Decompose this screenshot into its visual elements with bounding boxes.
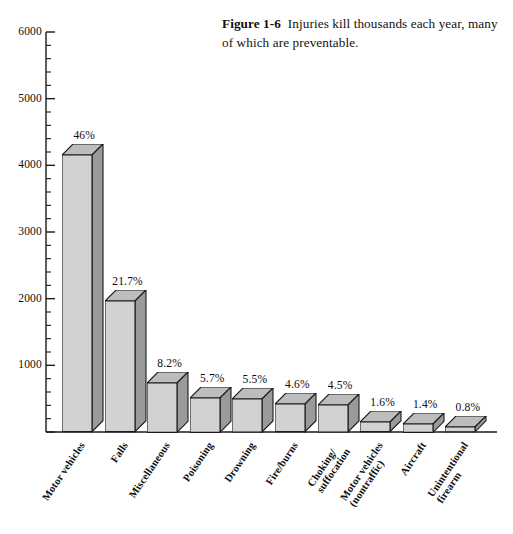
y-axis-tick-label: 5000 [0,92,42,104]
y-axis-tick-label: 3000 [0,225,42,237]
bar[interactable]: 5.5% [232,399,273,443]
bar[interactable]: 46% [62,155,103,443]
bar-chart: 100020003000400050006000 46%21.7%8.2%5.7… [0,0,513,534]
bar-front-face [190,398,220,432]
bar-front-face [275,404,305,432]
bar-3d-shape [318,394,360,433]
bar-value-label: 1.6% [370,396,395,408]
y-axis-tick-label: 1000 [0,358,42,370]
bar[interactable]: 1.4% [403,424,444,443]
bar-value-label: 5.7% [200,372,225,384]
bar-front-face [105,301,135,432]
bar[interactable]: 4.6% [275,404,316,443]
bar-front-face [147,383,177,432]
bar-side-face [92,144,103,432]
bar-front-face [318,405,348,432]
bar[interactable]: 4.5% [318,405,359,443]
bar-value-label: 0.8% [455,401,480,413]
y-axis-tick-label: 6000 [0,25,42,37]
bar-value-label: 21.7% [112,275,143,287]
bar-front-face [62,155,92,432]
bar-3d-shape [62,144,104,433]
bar-3d-shape [232,388,274,433]
y-axis-tick-label: 2000 [0,292,42,304]
bar-front-face [360,422,390,432]
bar-side-face [135,290,146,432]
bar-3d-shape [105,290,147,433]
bar[interactable]: 21.7% [105,301,146,443]
bar[interactable]: 1.6% [360,422,401,443]
bar-3d-shape [190,387,232,433]
bar-front-face [445,427,475,432]
bar-3d-shape [275,393,317,433]
bar-3d-shape [403,413,445,433]
bar-3d-shape [360,411,402,433]
bar[interactable]: 5.7% [190,398,231,443]
bar-value-label: 4.5% [328,379,353,391]
bar-front-face [232,399,262,432]
bar-value-label: 5.5% [242,373,267,385]
bar-value-label: 4.6% [285,378,310,390]
bar-value-label: 8.2% [157,357,182,369]
bar-side-face [177,372,188,432]
y-axis-tick-label: 4000 [0,158,42,170]
bar[interactable]: 0.8% [445,427,486,443]
bar-value-label: 46% [73,129,95,141]
bar-3d-shape [445,416,487,433]
bar[interactable]: 8.2% [147,383,188,443]
bar-value-label: 1.4% [413,398,438,410]
bar-front-face [403,424,433,432]
figure-container: Figure 1-6 Injuries kill thousands each … [0,0,513,534]
bar-3d-shape [147,372,189,433]
